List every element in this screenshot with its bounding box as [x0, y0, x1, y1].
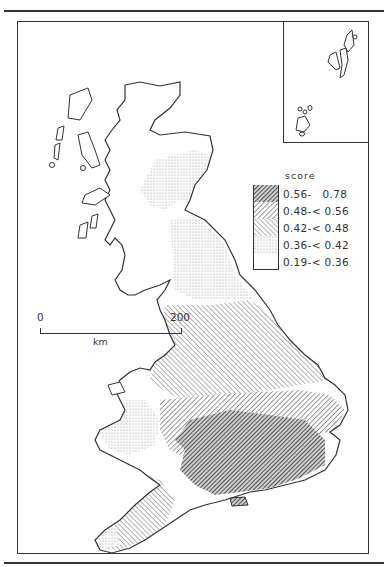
scale-line [40, 328, 182, 334]
isle-of-wight [230, 497, 248, 506]
legend: score 0.56- 0.78 0.48-< 0.56 0.42-< 0.48… [253, 170, 363, 270]
legend-title: score [285, 170, 363, 181]
pattern-swatch-stipple-icon [253, 236, 279, 253]
legend-item: 0.19-< 0.36 [253, 253, 363, 270]
pattern-swatch-blank-icon [253, 253, 279, 270]
pattern-swatch-medium-icon [253, 202, 279, 219]
legend-item: 0.48-< 0.56 [253, 202, 363, 219]
scale-unit-label: km [93, 336, 108, 347]
pattern-swatch-light-icon [253, 219, 279, 236]
inset-box [283, 21, 369, 143]
scale-bar: 0 200 km [30, 311, 200, 351]
legend-item: 0.36-< 0.42 [253, 236, 363, 253]
legend-item: 0.42-< 0.48 [253, 219, 363, 236]
scale-start-label: 0 [37, 311, 44, 323]
pattern-swatch-dark-icon [253, 185, 279, 202]
legend-item: 0.56- 0.78 [253, 185, 363, 202]
scale-end-label: 200 [170, 311, 190, 323]
